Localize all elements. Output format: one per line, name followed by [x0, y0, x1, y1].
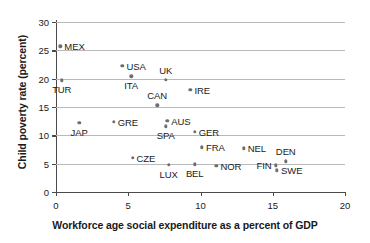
- x-tick-mark: [345, 192, 346, 196]
- x-tick-mark: [201, 192, 202, 196]
- y-tick-mark: [52, 22, 56, 23]
- data-point: [166, 119, 169, 122]
- data-point-label: FRA: [206, 142, 225, 153]
- data-point: [193, 163, 196, 166]
- data-point: [242, 147, 245, 150]
- data-point-label: JAP: [71, 127, 88, 138]
- plot-area: 05101520253005101520MEXTURUSAITAUKIRECAN…: [56, 22, 345, 192]
- data-point-label: GRE: [118, 116, 138, 127]
- data-point-label: CZE: [137, 153, 156, 164]
- y-tick-mark: [52, 135, 56, 136]
- x-tick-label: 5: [126, 200, 131, 211]
- data-point-label: DEN: [276, 146, 296, 157]
- x-tick-label: 20: [340, 200, 351, 211]
- data-point: [131, 156, 134, 159]
- x-tick-mark: [128, 192, 129, 196]
- data-point: [284, 160, 287, 163]
- x-tick-label: 0: [53, 200, 58, 211]
- data-point-label: AUS: [171, 115, 190, 126]
- data-point: [129, 75, 132, 78]
- data-point-label: GER: [199, 126, 219, 137]
- data-point: [193, 130, 196, 133]
- data-point: [275, 169, 278, 172]
- data-point: [112, 120, 115, 123]
- data-point-label: SWE: [281, 165, 302, 176]
- data-point-label: USA: [126, 60, 145, 71]
- data-point: [215, 164, 218, 167]
- x-axis-title: Workforce age social expenditure as a pe…: [0, 219, 370, 231]
- data-point: [59, 45, 62, 48]
- y-tick-label: 20: [38, 73, 49, 84]
- data-point: [121, 64, 124, 67]
- data-point: [164, 78, 167, 81]
- data-point-label: UK: [159, 65, 172, 76]
- x-tick-mark: [273, 192, 274, 196]
- data-point-label: ITA: [124, 80, 138, 91]
- y-tick-mark: [52, 50, 56, 51]
- data-point-label: FIN: [257, 160, 272, 171]
- y-tick-mark: [52, 164, 56, 165]
- y-axis-title: Child poverty rate (percent): [16, 2, 28, 202]
- y-gridline: [56, 107, 345, 108]
- x-tick-mark: [56, 192, 57, 196]
- data-point: [60, 79, 63, 82]
- data-point: [167, 163, 170, 166]
- y-tick-label: 0: [44, 187, 49, 198]
- data-point: [200, 146, 203, 149]
- data-point: [77, 121, 80, 124]
- y-gridline: [56, 22, 345, 23]
- data-point-label: NOR: [220, 160, 241, 171]
- y-tick-mark: [52, 79, 56, 80]
- y-tick-label: 25: [38, 45, 49, 56]
- data-point-label: MEX: [64, 41, 84, 52]
- y-tick-label: 15: [38, 102, 49, 113]
- x-tick-label: 10: [195, 200, 206, 211]
- data-point: [164, 125, 167, 128]
- y-tick-label: 10: [38, 130, 49, 141]
- data-point-label: SPA: [157, 130, 175, 141]
- data-point-label: CAN: [147, 90, 167, 101]
- y-gridline: [56, 79, 345, 80]
- y-tick-mark: [52, 107, 56, 108]
- data-point-label: TUR: [52, 84, 71, 95]
- data-point: [274, 164, 277, 167]
- data-point-label: LUX: [160, 169, 178, 180]
- data-point-label: IRE: [194, 85, 210, 96]
- y-gridline: [56, 50, 345, 51]
- x-tick-label: 15: [267, 200, 278, 211]
- data-point: [189, 88, 192, 91]
- y-tick-label: 5: [44, 158, 49, 169]
- scatter-chart-figure: Child poverty rate (percent) Workforce a…: [0, 0, 370, 243]
- data-point-label: NEL: [248, 143, 266, 154]
- y-tick-label: 30: [38, 17, 49, 28]
- data-point-label: BEL: [186, 168, 204, 179]
